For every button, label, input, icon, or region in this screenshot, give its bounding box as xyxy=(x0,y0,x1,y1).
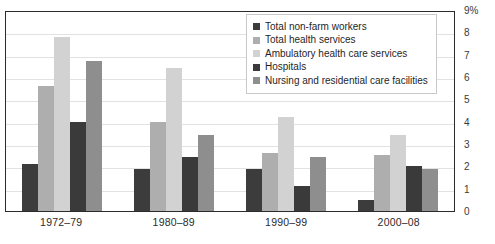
y-axis-tick-label: 2 xyxy=(464,162,470,172)
bar xyxy=(390,135,406,211)
y-axis-tick-label: 5 xyxy=(464,95,470,105)
x-axis-tick-label: 1980–89 xyxy=(118,216,231,236)
bar-group xyxy=(6,12,118,211)
x-axis-tick-label: 1972–79 xyxy=(5,216,118,236)
bar xyxy=(198,135,214,211)
y-axis-tick-label: 9% xyxy=(464,6,478,16)
bar xyxy=(86,61,102,211)
x-axis-tick-label: 2000–08 xyxy=(343,216,456,236)
legend-item-label: Total non-farm workers xyxy=(265,22,367,32)
y-axis-tick-label: 1 xyxy=(464,185,470,195)
legend-item-label: Hospitals xyxy=(265,62,306,72)
bar xyxy=(54,37,70,211)
bar xyxy=(310,157,326,211)
bar xyxy=(246,169,262,211)
bar xyxy=(22,164,38,211)
bar xyxy=(166,68,182,211)
legend-swatch-icon xyxy=(253,23,260,30)
bar-group xyxy=(118,12,230,211)
y-axis-tick-label: 4 xyxy=(464,118,470,128)
legend-item: Ambulatory health care services xyxy=(253,47,428,61)
y-axis-tick-label: 0 xyxy=(464,207,470,217)
bar xyxy=(422,169,438,211)
bar xyxy=(406,166,422,211)
x-axis: 1972–791980–891990–992000–08 xyxy=(5,216,455,236)
bar xyxy=(70,122,86,211)
legend-item: Hospitals xyxy=(253,61,428,75)
bar xyxy=(182,157,198,211)
legend-swatch-icon xyxy=(253,50,260,57)
legend-item: Total non-farm workers xyxy=(253,20,428,34)
chart-legend: Total non-farm workersTotal health servi… xyxy=(246,14,437,94)
bar xyxy=(294,186,310,211)
bar xyxy=(262,153,278,211)
bar xyxy=(134,169,150,211)
y-axis-tick-label: 7 xyxy=(464,51,470,61)
bar-chart: 9%876543210 1972–791980–891990–992000–08… xyxy=(0,0,495,244)
legend-item-label: Ambulatory health care services xyxy=(265,49,407,59)
legend-item: Nursing and residential care facilities xyxy=(253,74,428,88)
bar xyxy=(150,122,166,211)
y-axis-tick-label: 6 xyxy=(464,73,470,83)
legend-swatch-icon xyxy=(253,77,260,84)
legend-swatch-icon xyxy=(253,37,260,44)
legend-item: Total health services xyxy=(253,34,428,48)
y-axis-tick-label: 3 xyxy=(464,140,470,150)
bar xyxy=(374,155,390,211)
legend-swatch-icon xyxy=(253,64,260,71)
legend-item-label: Nursing and residential care facilities xyxy=(265,76,428,86)
y-axis-tick-label: 8 xyxy=(464,28,470,38)
bar xyxy=(38,86,54,211)
x-axis-tick-label: 1990–99 xyxy=(230,216,343,236)
legend-item-label: Total health services xyxy=(265,35,356,45)
y-axis: 9%876543210 xyxy=(459,0,495,244)
bar xyxy=(278,117,294,211)
bar xyxy=(358,200,374,211)
